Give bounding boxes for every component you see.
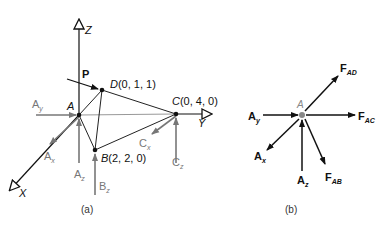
node-a-label: A	[296, 99, 304, 110]
member-ab	[79, 115, 95, 150]
reaction-ax-arrow	[50, 117, 79, 144]
point-a-label: A	[66, 100, 74, 112]
force-ay-label: Ay	[248, 110, 261, 125]
point-d-label: D(0, 1, 1)	[110, 78, 156, 90]
force-fad-arrow	[305, 76, 338, 111]
reaction-cx-arrow	[152, 116, 176, 134]
load-p-label: P	[82, 68, 89, 80]
caption-b: (b)	[285, 204, 297, 215]
force-fab-arrow	[305, 119, 325, 164]
member-bc	[95, 114, 176, 150]
reaction-ax-label: Ax	[44, 150, 55, 164]
reaction-ay-label: Ay	[32, 98, 43, 113]
force-fad-label: FAD	[340, 62, 357, 76]
truss-diagram: Z Y X P Ay Ax Az Bz Cz Cx A D(0	[0, 0, 392, 226]
force-fac-label: FAC	[358, 110, 376, 124]
member-ad	[79, 90, 102, 115]
reaction-bz-label: Bz	[99, 180, 110, 194]
reaction-cx-label: Cx	[139, 137, 151, 151]
reaction-az-label: Az	[74, 168, 85, 182]
joint-b	[93, 148, 98, 153]
joint-d	[100, 88, 105, 93]
node-a	[299, 112, 305, 118]
force-ax-arrow	[267, 119, 299, 150]
force-az-label: Az	[297, 174, 309, 188]
load-p-arrow	[67, 79, 98, 89]
point-b-label: B(2, 2, 0)	[101, 152, 146, 164]
force-fab-label: FAB	[325, 171, 342, 185]
member-ac	[79, 114, 176, 115]
y-axis-label: Y	[198, 117, 206, 129]
force-ax-label: Ax	[254, 150, 267, 164]
joint-a	[77, 113, 82, 118]
point-c-label: C(0, 4, 0)	[172, 95, 218, 107]
x-axis-label: X	[18, 187, 27, 199]
joint-c	[174, 112, 179, 117]
member-db	[95, 90, 102, 150]
figure-b: Ay FAC FAD Ax Az FAB A (b)	[248, 62, 376, 215]
figure-canvas: Z Y X P Ay Ax Az Bz Cz Cx A D(0	[0, 0, 392, 226]
reaction-cz-label: Cz	[172, 156, 184, 170]
member-dc	[102, 90, 176, 114]
z-axis-label: Z	[84, 24, 93, 36]
figure-a: Z Y X P Ay Ax Az Bz Cz Cx A D(0	[10, 20, 218, 215]
caption-a: (a)	[81, 204, 93, 215]
